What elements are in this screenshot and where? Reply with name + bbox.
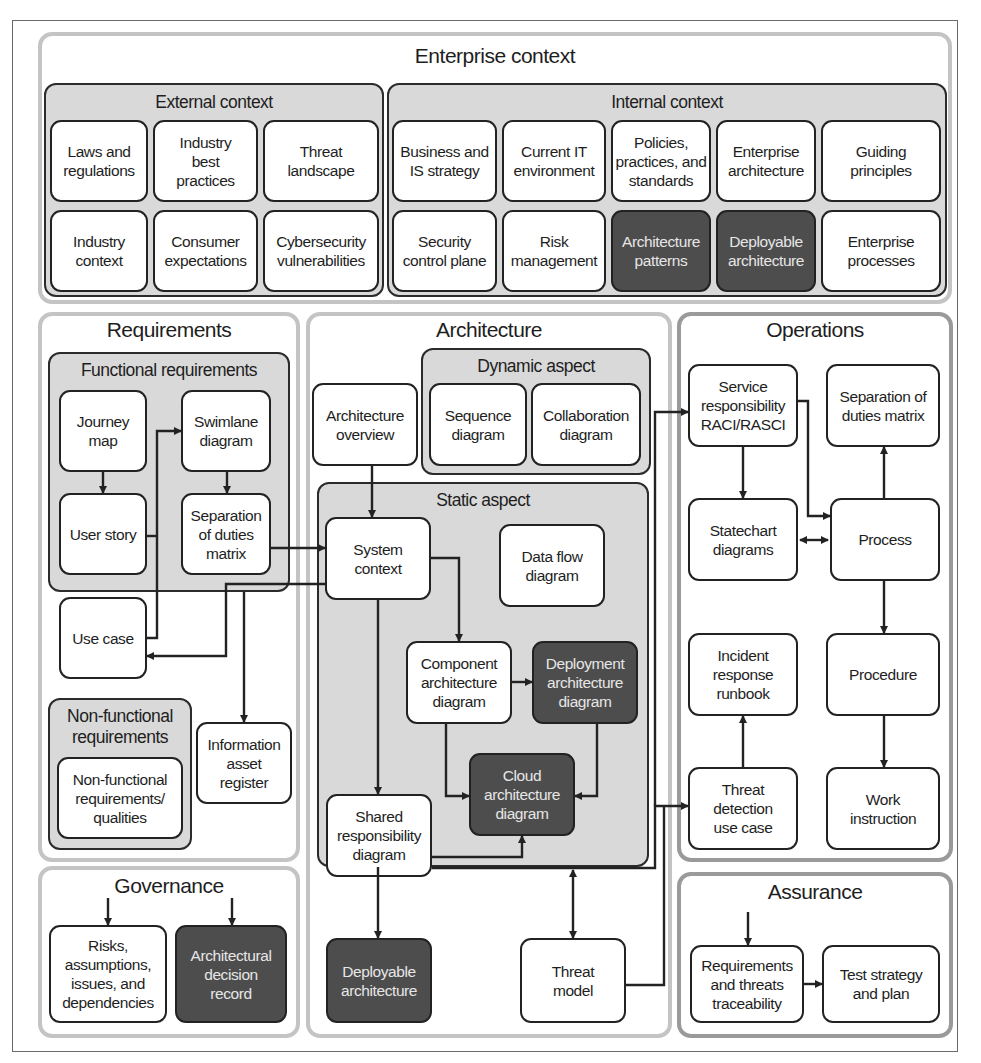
raid-box: Risks, assumptions, issues, and dependen… — [49, 925, 167, 1023]
architectural-decision-record-box: Architectural decision record — [175, 925, 287, 1023]
service-raci-box: Service responsibility RACI/RASCI — [688, 364, 798, 447]
static-aspect-title: Static aspect — [317, 490, 649, 511]
risk-management-box: Risk management — [502, 210, 606, 292]
sequence-diagram-box: Sequence diagram — [429, 383, 527, 466]
cybersecurity-vulnerabilities-box: Cybersecurity vulnerabilities — [263, 210, 379, 292]
requirements-title: Requirements — [38, 318, 300, 342]
non-functional-qualities-box: Non-functional requirements/ qualities — [57, 757, 183, 839]
component-architecture-box: Component architecture diagram — [406, 641, 512, 724]
industry-context-box: Industry context — [50, 210, 148, 292]
architecture-overview-box: Architecture overview — [312, 383, 418, 466]
governance-title: Governance — [38, 874, 300, 898]
guiding-principles-box: Guiding principles — [821, 120, 941, 202]
enterprise-processes-box: Enterprise processes — [821, 210, 941, 292]
data-flow-diagram-box: Data flow diagram — [499, 524, 605, 607]
use-case-box: Use case — [59, 597, 147, 679]
sod-matrix-ops-box: Separation of duties matrix — [826, 364, 940, 447]
procedure-box: Procedure — [826, 633, 940, 716]
laws-regulations-box: Laws and regulations — [50, 120, 148, 202]
non-functional-requirements-title: Non-functional requirements — [48, 706, 192, 748]
statechart-diagrams-box: Statechart diagrams — [688, 498, 798, 581]
architecture-patterns-box: Architecture patterns — [611, 210, 711, 292]
internal-context-title: Internal context — [387, 92, 947, 113]
current-it-environment-box: Current IT environment — [502, 120, 606, 202]
functional-requirements-title: Functional requirements — [48, 360, 290, 381]
threat-model-box: Threat model — [520, 938, 626, 1023]
dynamic-aspect-title: Dynamic aspect — [421, 356, 651, 377]
deployment-architecture-box: Deployment architecture diagram — [532, 641, 638, 724]
deployable-architecture-ec-box: Deployable architecture — [716, 210, 816, 292]
journey-map-box: Journey map — [59, 390, 147, 472]
external-context-title: External context — [44, 92, 384, 113]
information-asset-register-box: Information asset register — [196, 722, 292, 804]
test-strategy-box: Test strategy and plan — [822, 945, 940, 1023]
threat-detection-box: Threat detection use case — [688, 767, 798, 850]
system-context-box: System context — [325, 517, 431, 600]
assurance-title: Assurance — [677, 880, 953, 904]
incident-response-runbook-box: Incident response runbook — [688, 633, 798, 716]
process-box: Process — [830, 498, 940, 581]
requirements-threats-traceability-box: Requirements and threats traceability — [690, 945, 804, 1023]
business-is-strategy-box: Business and IS strategy — [392, 120, 497, 202]
user-story-box: User story — [59, 493, 147, 575]
enterprise-context-title: Enterprise context — [38, 44, 952, 68]
policies-practices-standards-box: Policies, practices, and standards — [611, 120, 711, 202]
swimlane-diagram-box: Swimlane diagram — [181, 390, 271, 472]
threat-landscape-box: Threat landscape — [263, 120, 379, 202]
collaboration-diagram-box: Collaboration diagram — [531, 383, 641, 466]
enterprise-architecture-box: Enterprise architecture — [716, 120, 816, 202]
deployable-architecture-box: Deployable architecture — [326, 938, 432, 1023]
shared-responsibility-box: Shared responsibility diagram — [326, 794, 432, 877]
security-control-plane-box: Security control plane — [392, 210, 497, 292]
architecture-title: Architecture — [306, 318, 672, 342]
sod-matrix-req-box: Separation of duties matrix — [181, 493, 271, 575]
work-instruction-box: Work instruction — [826, 767, 940, 850]
consumer-expectations-box: Consumer expectations — [153, 210, 258, 292]
industry-best-practices-box: Industry best practices — [153, 120, 258, 202]
cloud-architecture-box: Cloud architecture diagram — [469, 753, 575, 836]
operations-title: Operations — [677, 318, 953, 342]
